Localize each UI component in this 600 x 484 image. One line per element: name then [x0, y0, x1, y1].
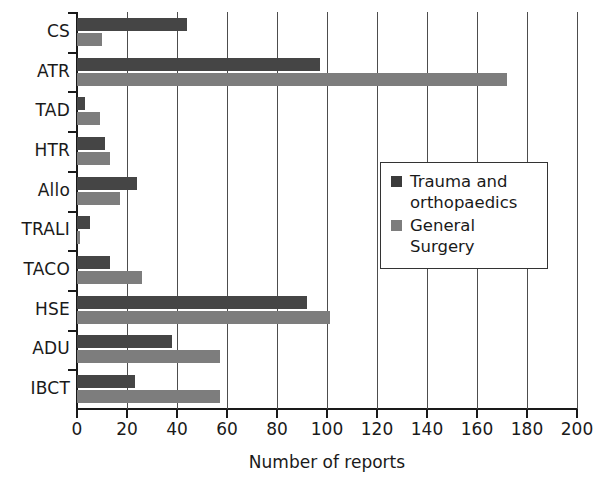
- x-axis-tick: [176, 409, 178, 418]
- y-axis-tick: [68, 250, 77, 252]
- bar-taco-series1: [77, 271, 142, 284]
- x-axis-tick: [476, 409, 478, 418]
- bar-trali-series1: [77, 231, 80, 244]
- bar-adu-series1: [77, 350, 220, 363]
- category-label: HSE: [0, 301, 70, 318]
- legend-label: General Surgery: [410, 215, 537, 257]
- y-axis-tick: [68, 330, 77, 332]
- y-axis-tick: [68, 12, 77, 14]
- x-axis-tick: [526, 409, 528, 418]
- bar-chart: CSATRTADHTRAlloTRALITACOHSEADUIBCT 02040…: [0, 0, 600, 484]
- x-axis-tick: [276, 409, 278, 418]
- y-axis-tick: [68, 290, 77, 292]
- category-label: IBCT: [0, 380, 70, 397]
- y-axis-tick: [68, 52, 77, 54]
- bar-hse-series1: [77, 311, 330, 324]
- y-axis-tick: [68, 211, 77, 213]
- bar-cs-series0: [77, 18, 187, 31]
- bar-adu-series0: [77, 335, 172, 348]
- bar-allo-series1: [77, 192, 120, 205]
- y-axis-tick: [68, 369, 77, 371]
- category-label: TRALI: [0, 221, 70, 238]
- category-label: CS: [0, 23, 70, 40]
- gridline: [277, 12, 278, 409]
- x-axis-tick: [126, 409, 128, 418]
- bar-taco-series0: [77, 256, 110, 269]
- legend-swatch-icon: [391, 220, 402, 231]
- gridline: [177, 12, 178, 409]
- gridline: [377, 12, 378, 409]
- chart-legend: Trauma and orthopaedics General Surgery: [380, 162, 548, 269]
- bar-tad-series1: [77, 112, 100, 125]
- x-axis-tick: [76, 409, 78, 418]
- x-axis-tick: [326, 409, 328, 418]
- y-axis-tick: [68, 91, 77, 93]
- category-label: HTR: [0, 142, 70, 159]
- bar-cs-series1: [77, 33, 102, 46]
- legend-swatch-icon: [391, 176, 402, 187]
- x-axis-title: Number of reports: [77, 452, 577, 472]
- gridline: [577, 12, 578, 409]
- category-label: ATR: [0, 63, 70, 80]
- gridline: [327, 12, 328, 409]
- y-axis-tick: [68, 131, 77, 133]
- bar-trali-series0: [77, 216, 90, 229]
- bar-atr-series0: [77, 58, 320, 71]
- gridline: [227, 12, 228, 409]
- bar-htr-series0: [77, 137, 105, 150]
- x-axis-tick: [376, 409, 378, 418]
- bar-atr-series1: [77, 73, 507, 86]
- category-label: Allo: [0, 182, 70, 199]
- legend-item-general-surgery: General Surgery: [391, 215, 537, 257]
- x-axis-tick: [226, 409, 228, 418]
- category-label: TAD: [0, 102, 70, 119]
- bar-tad-series0: [77, 97, 85, 110]
- category-label: TACO: [0, 261, 70, 278]
- y-axis-tick: [68, 171, 77, 173]
- bar-allo-series0: [77, 177, 137, 190]
- x-axis-tick: [426, 409, 428, 418]
- bar-ibct-series0: [77, 375, 135, 388]
- legend-label: Trauma and orthopaedics: [410, 171, 537, 213]
- category-label: ADU: [0, 340, 70, 357]
- bar-ibct-series1: [77, 390, 220, 403]
- gridline: [127, 12, 128, 409]
- bar-hse-series0: [77, 296, 307, 309]
- x-axis-tick-label: 200: [547, 420, 600, 439]
- category-axis-labels: CSATRTADHTRAlloTRALITACOHSEADUIBCT: [0, 12, 70, 409]
- legend-item-trauma-and-orthopaedics: Trauma and orthopaedics: [391, 171, 537, 213]
- bar-htr-series1: [77, 152, 110, 165]
- x-axis-tick: [576, 409, 578, 418]
